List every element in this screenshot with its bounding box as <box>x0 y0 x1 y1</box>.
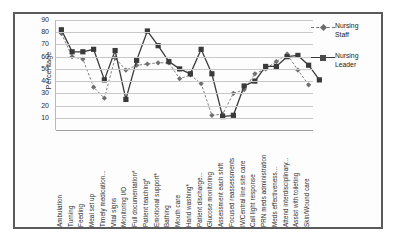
x-tick-label: Patient discharge... <box>196 172 203 227</box>
y-tick-label: 30 <box>29 89 49 97</box>
x-tick-label: Emotional support* <box>153 173 160 227</box>
data-point-marker <box>156 60 161 65</box>
x-tick-label: Patient teaching* <box>142 179 149 227</box>
x-tick-label: Glucose monitoring <box>206 172 213 227</box>
x-tick-label: Mouth care <box>174 195 181 227</box>
data-point-marker <box>252 71 257 76</box>
y-tick-label: 10 <box>29 114 49 122</box>
legend-label-nursing-staff: Nursing Staff <box>335 22 358 39</box>
x-tick-label: Vital signs <box>110 198 117 227</box>
data-point-marker <box>123 97 128 102</box>
y-tick-label: 50 <box>29 65 49 73</box>
x-tick-label: Timely medication... <box>99 170 106 227</box>
legend-label-nursing-leader: Nursing Leader <box>335 52 358 69</box>
data-point-marker <box>113 48 118 53</box>
y-tick-label: 20 <box>29 102 49 110</box>
axis-baseline <box>56 130 313 131</box>
gridline <box>56 118 313 119</box>
y-tick-label: 90 <box>29 16 49 24</box>
chart-legend: Nursing Staff Nursing Leader <box>311 22 375 82</box>
gridline <box>56 106 313 107</box>
legend-item-nursing-staff: Nursing Staff <box>311 22 375 39</box>
x-tick-label: Hand washing* <box>185 184 192 227</box>
data-point-marker <box>70 49 75 54</box>
data-point-marker <box>199 47 204 52</box>
x-tick-label: Call light response <box>249 174 256 227</box>
x-tick-label: Meds effectiveness... <box>271 167 278 227</box>
chart-svg <box>56 20 314 130</box>
x-tick-label: Turning <box>67 206 74 227</box>
x-tick-label: Monitoring I/O <box>120 187 127 227</box>
x-tick-label: Assessment each shift <box>217 163 224 227</box>
x-tick-label: Feeding <box>77 204 84 227</box>
data-point-marker <box>306 82 311 87</box>
y-tick-label: 80 <box>29 28 49 36</box>
chart-frame: Percentage 908070605040302010 Ambulation… <box>13 12 383 229</box>
x-tick-label: Focused reassessments <box>228 158 235 227</box>
x-tick-label: Ambulation <box>56 195 63 227</box>
data-point-marker <box>91 47 96 52</box>
gridline <box>56 81 313 82</box>
data-point-marker <box>134 58 139 63</box>
y-tick-label: 60 <box>29 53 49 61</box>
gridline <box>56 57 313 58</box>
data-point-marker <box>242 83 247 88</box>
data-point-marker <box>209 71 214 76</box>
data-point-marker <box>166 59 171 64</box>
x-tick-label: Skin/Wound care <box>303 178 310 227</box>
x-axis-tick-labels: AmbulationTurningFeedingMeal set upTimel… <box>55 132 313 227</box>
gridline <box>56 32 313 33</box>
x-tick-label: Full documentation* <box>131 170 138 227</box>
data-point-marker <box>145 61 150 66</box>
data-point-marker <box>274 59 279 64</box>
gridline <box>56 20 313 21</box>
x-tick-label: PRN meds administration <box>260 154 267 227</box>
series-line-nursing-staff <box>61 33 308 115</box>
y-tick-label: 70 <box>29 40 49 48</box>
x-tick-label: Meal set up <box>88 194 95 227</box>
x-tick-label: Bathing <box>163 205 170 227</box>
legend-key-dashed-diamond-icon <box>311 23 335 32</box>
legend-item-nursing-leader: Nursing Leader <box>311 52 375 69</box>
x-tick-label: Attend interdisciplinary... <box>282 158 289 227</box>
x-tick-label: Assist with toileting <box>292 173 299 227</box>
gridline <box>56 44 313 45</box>
gridline <box>56 69 313 70</box>
data-point-marker <box>80 49 85 54</box>
x-tick-label: IV/Central line site care <box>239 161 246 227</box>
data-point-marker <box>188 71 193 76</box>
gridline <box>56 93 313 94</box>
y-tick-label: 40 <box>29 77 49 85</box>
plot-area <box>55 20 313 130</box>
legend-key-solid-square-icon <box>311 53 335 62</box>
